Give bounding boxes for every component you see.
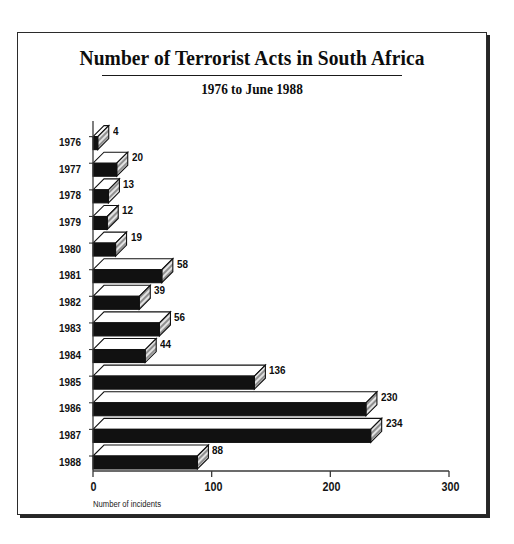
bar-front-face <box>93 350 145 363</box>
bar-chart-graphic <box>18 33 488 516</box>
bars-group <box>93 126 382 469</box>
bar-1982 <box>93 285 150 309</box>
bar-top-face <box>93 418 382 429</box>
x-axis-tick-100: 100 <box>204 480 222 494</box>
x-axis-title: Number of incidents <box>93 499 161 509</box>
bar-1981 <box>93 259 173 283</box>
bar-front-face <box>93 376 254 389</box>
bar-1984 <box>93 339 156 363</box>
y-axis-label-1988: 1988 <box>27 456 81 468</box>
bar-front-face <box>93 296 139 309</box>
bar-1979 <box>93 205 118 229</box>
bar-front-face <box>93 216 107 229</box>
bar-value-label-1983: 56 <box>174 311 185 323</box>
y-axis-label-1979: 1979 <box>27 216 81 228</box>
y-axis-label-1978: 1978 <box>27 189 81 201</box>
bar-value-label-1985: 136 <box>269 364 286 376</box>
y-axis-label-1985: 1985 <box>27 376 81 388</box>
bar-value-label-1977: 20 <box>132 151 143 163</box>
plot-area: 1976419772019781319791219801919815819823… <box>18 33 486 514</box>
bar-value-label-1980: 19 <box>131 231 142 243</box>
bar-1978 <box>93 179 119 203</box>
x-axis-tick-0: 0 <box>90 480 96 494</box>
y-axis-label-1977: 1977 <box>27 163 81 175</box>
bar-front-face <box>93 190 108 203</box>
bar-1976 <box>93 126 109 150</box>
bar-front-face <box>93 456 197 469</box>
bar-front-face <box>93 243 116 256</box>
bar-front-face <box>93 137 98 150</box>
bar-front-face <box>93 270 162 283</box>
bar-1983 <box>93 312 170 336</box>
bar-value-label-1988: 88 <box>212 444 223 456</box>
figure-frame: Number of Terrorist Acts in South Africa… <box>17 32 487 515</box>
y-axis-label-1980: 1980 <box>27 243 81 255</box>
y-axis-label-1986: 1986 <box>27 402 81 414</box>
y-axis-label-1981: 1981 <box>27 269 81 281</box>
bar-1987 <box>93 418 382 442</box>
bar-value-label-1981: 58 <box>177 258 188 270</box>
bar-front-face <box>93 403 366 416</box>
bar-1988 <box>93 445 208 469</box>
bar-front-face <box>93 323 159 336</box>
x-axis-tick-300: 300 <box>441 480 459 494</box>
bar-1986 <box>93 392 377 416</box>
bar-top-face <box>93 392 377 403</box>
bar-value-label-1982: 39 <box>154 284 165 296</box>
bar-value-label-1986: 230 <box>381 391 398 403</box>
bar-value-label-1979: 12 <box>122 204 133 216</box>
bar-top-face <box>93 312 170 323</box>
bar-1985 <box>93 365 265 389</box>
bar-1980 <box>93 232 127 256</box>
x-axis-tick-200: 200 <box>323 480 341 494</box>
y-axis-label-1976: 1976 <box>27 136 81 148</box>
y-axis-label-1984: 1984 <box>27 349 81 361</box>
bar-value-label-1987: 234 <box>386 417 403 429</box>
bar-front-face <box>93 429 371 442</box>
y-axis-label-1987: 1987 <box>27 429 81 441</box>
bar-front-face <box>93 163 117 176</box>
bar-top-face <box>93 365 265 376</box>
bar-value-label-1978: 13 <box>123 178 134 190</box>
bar-value-label-1984: 44 <box>160 338 171 350</box>
y-axis-label-1982: 1982 <box>27 296 81 308</box>
bar-value-label-1976: 4 <box>113 125 119 137</box>
bar-1977 <box>93 152 128 176</box>
y-axis-label-1983: 1983 <box>27 322 81 334</box>
bar-top-face <box>93 445 208 456</box>
bar-top-face <box>93 259 173 270</box>
